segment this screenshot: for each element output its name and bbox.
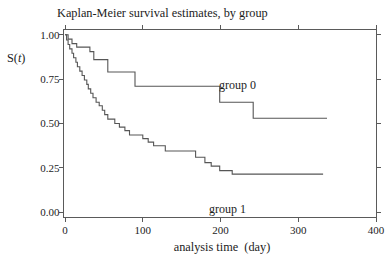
series-label-group-0: group 0 <box>219 78 256 92</box>
km-survival-chart: 01002003004000.000.250.500.751.00 Kaplan… <box>0 0 387 265</box>
y-axis-label-part: S( <box>7 51 18 65</box>
y-tick-label: 0.25 <box>40 162 60 174</box>
x-tick-label: 0 <box>62 224 68 236</box>
y-tick-label: 0.00 <box>40 206 60 218</box>
series-label-group-1: group 1 <box>209 202 246 216</box>
y-tick-label: 0.50 <box>40 117 60 129</box>
x-axis-label: analysis time (day) <box>174 240 271 254</box>
x-tick-label: 100 <box>135 224 152 236</box>
x-tick-label: 300 <box>290 224 307 236</box>
y-tick-label: 0.75 <box>40 73 60 85</box>
plot-frame-layer <box>59 25 381 222</box>
x-tick-label: 400 <box>368 224 385 236</box>
y-axis-label-part: ) <box>21 51 25 65</box>
chart-canvas: 01002003004000.000.250.500.751.00 Kaplan… <box>0 0 387 265</box>
y-axis-label: S(t) <box>7 51 25 65</box>
x-tick-label: 200 <box>212 224 229 236</box>
km-curve-group-0 <box>65 35 327 119</box>
series-layer <box>65 35 327 174</box>
chart-title: Kaplan-Meier survival estimates, by grou… <box>57 6 268 20</box>
plot-border <box>64 30 377 218</box>
y-tick-label: 1.00 <box>40 29 60 41</box>
km-curve-group-1 <box>65 35 323 174</box>
